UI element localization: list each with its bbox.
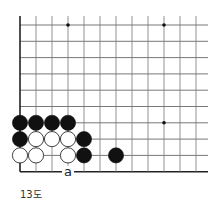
star-point-icon bbox=[162, 121, 166, 125]
black-stone-icon bbox=[108, 148, 123, 163]
black-stone-icon bbox=[44, 115, 59, 130]
black-stone-icon bbox=[12, 132, 27, 147]
white-stone-icon bbox=[28, 132, 43, 147]
point-labels: a bbox=[62, 164, 74, 179]
point-label: a bbox=[64, 164, 72, 179]
black-stone-icon bbox=[12, 115, 27, 130]
diagram-caption: 13도 bbox=[20, 186, 42, 201]
white-stone-icon bbox=[12, 148, 27, 163]
white-stone-icon bbox=[28, 148, 43, 163]
black-stone-icon bbox=[60, 115, 75, 130]
star-point-icon bbox=[162, 23, 166, 27]
star-point-icon bbox=[66, 23, 70, 27]
black-stone-icon bbox=[76, 148, 91, 163]
black-stone-icon bbox=[28, 115, 43, 130]
go-board-diagram: a bbox=[0, 0, 216, 207]
white-stone-icon bbox=[60, 132, 75, 147]
white-stone-icon bbox=[44, 132, 59, 147]
white-stone-icon bbox=[60, 148, 75, 163]
black-stone-icon bbox=[76, 132, 91, 147]
